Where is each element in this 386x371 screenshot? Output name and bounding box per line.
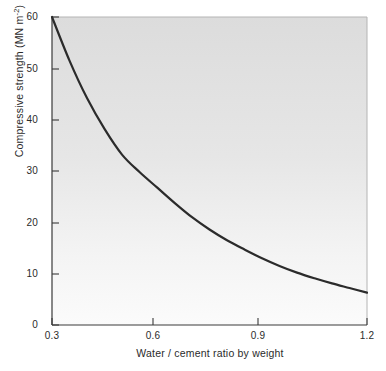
y-tick-label-20: 20 — [12, 217, 38, 228]
y-axis-title: Compressive strength (MN m-2) — [13, 0, 25, 186]
y-tick-label-10: 10 — [12, 268, 38, 279]
y-axis-title-tail: ) — [13, 5, 25, 9]
y-tick-label-0: 0 — [12, 319, 38, 330]
x-tick-label-0-9: 0.9 — [244, 330, 272, 341]
y-axis-title-exponent: -2 — [12, 8, 21, 15]
chart-figure: 60 50 40 30 20 10 0 0.3 0.6 0.9 1.2 Wate… — [0, 0, 386, 371]
x-axis-title: Water / cement ratio by weight — [52, 347, 368, 359]
x-tick-label-0-3: 0.3 — [38, 330, 66, 341]
y-axis-title-text: Compressive strength (MN m — [13, 16, 25, 158]
x-tick-label-0-6: 0.6 — [139, 330, 167, 341]
compressive-strength-plot — [0, 0, 386, 371]
x-tick-label-1-2: 1.2 — [353, 330, 381, 341]
